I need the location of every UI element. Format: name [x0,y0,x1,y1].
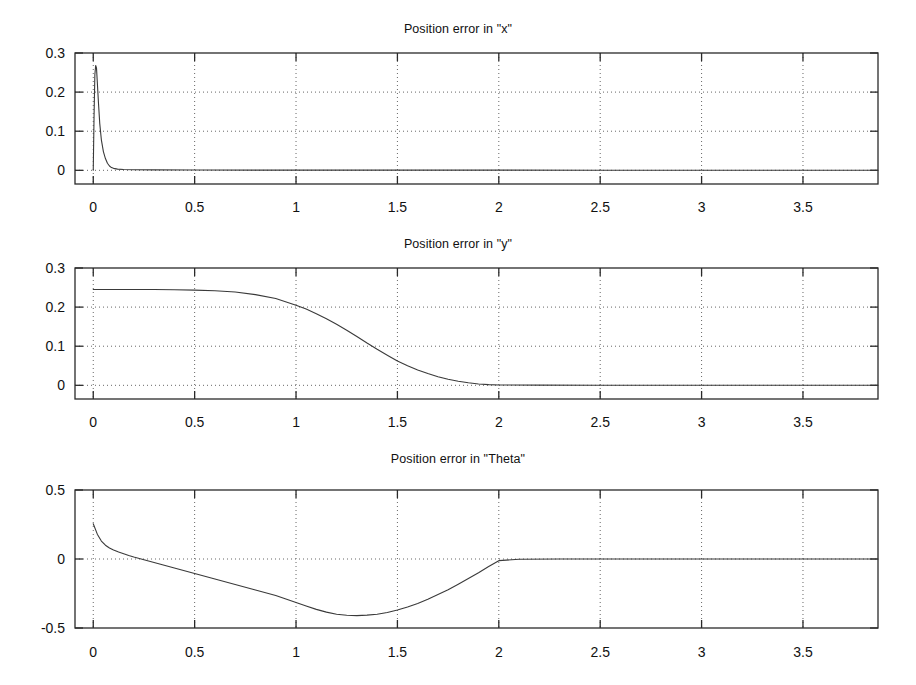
y-tick-label: -0.5 [41,620,65,636]
x-tick-label: 0 [89,414,97,430]
y-tick-label: 0.3 [46,45,66,61]
data-series-line [93,66,878,171]
chart-panel-position-error-y: Position error in "y" 00.10.20.300.511.5… [0,235,916,450]
chart-panel-position-error-x: Position error in "x" 00.10.20.300.511.5… [0,20,916,235]
x-tick-label: 3.5 [793,644,813,660]
x-tick-label: 1 [292,414,300,430]
x-tick-label: 2.5 [590,644,610,660]
x-tick-label: 2 [495,644,503,660]
figure-position-errors: Position error in "x" 00.10.20.300.511.5… [0,0,916,685]
y-tick-label: 0.2 [46,299,66,315]
x-tick-label: 1.5 [388,199,408,215]
y-tick-label: 0.1 [46,338,66,354]
x-tick-label: 0.5 [185,199,205,215]
y-tick-label: 0.1 [46,123,66,139]
y-tick-label: 0 [57,377,65,393]
x-tick-label: 2.5 [590,414,610,430]
y-tick-label: 0.5 [46,482,66,498]
x-tick-label: 2 [495,199,503,215]
x-tick-label: 0.5 [185,644,205,660]
x-tick-label: 0.5 [185,414,205,430]
plot-area-x: 00.10.20.300.511.522.533.5 [0,20,916,235]
x-tick-label: 3.5 [793,414,813,430]
x-tick-label: 3 [698,414,706,430]
data-series-line [93,290,878,386]
x-tick-label: 3 [698,199,706,215]
y-tick-label: 0.3 [46,260,66,276]
y-tick-label: 0 [57,162,65,178]
x-tick-label: 1.5 [388,414,408,430]
x-tick-label: 1 [292,199,300,215]
x-tick-label: 2 [495,414,503,430]
x-tick-label: 0 [89,199,97,215]
x-tick-label: 2.5 [590,199,610,215]
y-tick-label: 0 [57,551,65,567]
y-tick-label: 0.2 [46,84,66,100]
x-tick-label: 3 [698,644,706,660]
plot-frame [75,53,878,184]
plot-area-y: 00.10.20.300.511.522.533.5 [0,235,916,450]
plot-area-theta: -0.500.500.511.522.533.5 [0,450,916,685]
plot-frame [75,268,878,399]
x-tick-label: 3.5 [793,199,813,215]
data-series-line [93,524,878,616]
x-tick-label: 1 [292,644,300,660]
chart-panel-position-error-theta: Position error in "Theta" -0.500.500.511… [0,450,916,685]
x-tick-label: 1.5 [388,644,408,660]
x-tick-label: 0 [89,644,97,660]
